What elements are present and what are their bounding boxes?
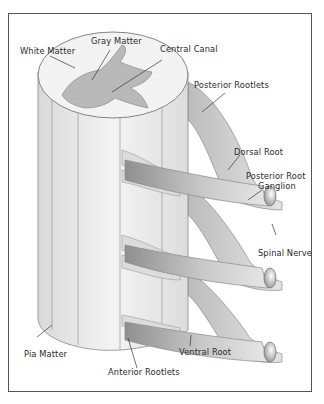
label-dorsal-root: Dorsal Root [234, 148, 283, 156]
label-posterior-root-ganglion-line1: Posterior Root [246, 172, 306, 180]
label-spinal-nerve: Spinal Nerve [258, 249, 312, 257]
label-anterior-rootlets: Anterior Rootlets [108, 368, 180, 376]
label-pia-matter: Pia Matter [24, 350, 67, 358]
label-white-matter: White Matter [20, 47, 75, 55]
label-posterior-root-ganglion-line2: Ganglion [258, 182, 296, 190]
dorsal-roots [188, 82, 282, 363]
nerve-ends [264, 186, 276, 362]
label-central-canal: Central Canal [160, 45, 218, 53]
label-ventral-root: Ventral Root [179, 348, 231, 356]
label-posterior-rootlets: Posterior Rootlets [194, 81, 269, 89]
spinal-cord-illustration [0, 0, 324, 404]
label-gray-matter: Gray Matter [91, 37, 142, 45]
